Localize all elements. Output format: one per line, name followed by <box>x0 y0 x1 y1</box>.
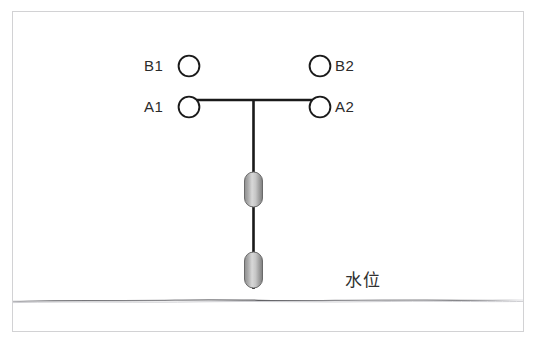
top-clipped-text-region <box>0 0 535 7</box>
sensor-label-a1: A1 <box>144 99 163 114</box>
sensor-label-b2: B2 <box>335 58 354 73</box>
water-level-label: 水位 <box>345 272 381 289</box>
diagram-frame <box>12 11 524 332</box>
sensor-label-b1: B1 <box>144 58 163 73</box>
sensor-label-a2: A2 <box>335 99 354 114</box>
diagram-canvas: B1 B2 A1 A2 水位 <box>0 0 535 347</box>
top-clipped-text <box>28 0 105 4</box>
